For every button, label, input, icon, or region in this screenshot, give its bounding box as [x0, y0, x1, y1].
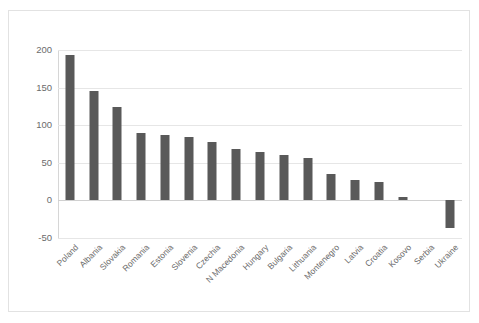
bar-slot [296, 50, 320, 238]
bar-slot [177, 50, 201, 238]
x-axis-tick-label: Latvia [343, 243, 365, 265]
bar-slot [319, 50, 343, 238]
bar-slot [58, 50, 82, 238]
bar[interactable] [113, 107, 122, 200]
bar[interactable] [351, 180, 360, 200]
bar[interactable] [137, 133, 146, 200]
x-axis-tick-label: Croatia [363, 243, 388, 268]
bar-slot [82, 50, 106, 238]
bar[interactable] [327, 174, 336, 200]
plot-area: 200150100500-50 [58, 50, 462, 238]
bar-slot [367, 50, 391, 238]
bar[interactable] [184, 137, 193, 200]
bar-slot [106, 50, 130, 238]
bar-slot [129, 50, 153, 238]
bar-slot [153, 50, 177, 238]
bar-slot [414, 50, 438, 238]
x-axis-tick-label: Poland [55, 243, 80, 268]
y-axis-tick-label: 50 [41, 158, 52, 168]
bar[interactable] [89, 91, 98, 201]
gridline [58, 238, 462, 239]
x-axis-tick-label: Ukraine [433, 243, 460, 270]
x-axis-tick-label: Hungary [241, 243, 270, 272]
bar[interactable] [303, 158, 312, 200]
bar[interactable] [208, 142, 217, 200]
bar-series [58, 50, 462, 238]
bar[interactable] [374, 182, 383, 201]
bar[interactable] [232, 149, 241, 200]
bar-slot [201, 50, 225, 238]
y-axis-tick-label: -50 [38, 233, 52, 243]
y-axis-tick-label: 200 [36, 45, 52, 55]
x-axis-tick-label: Kosovo [387, 243, 413, 269]
bar-slot [224, 50, 248, 238]
bar-slot [391, 50, 415, 238]
bar[interactable] [255, 152, 264, 201]
bar[interactable] [279, 155, 288, 201]
y-axis-tick-label: 150 [36, 83, 52, 93]
bar-slot [438, 50, 462, 238]
chart-frame: 200150100500-50 PolandAlbaniaSlovakiaRom… [8, 10, 470, 312]
x-axis-tick-labels: PolandAlbaniaSlovakiaRomaniaEstoniaSlove… [58, 243, 462, 313]
bar[interactable] [398, 197, 407, 200]
bar-slot [248, 50, 272, 238]
bar[interactable] [160, 135, 169, 200]
bar-slot [272, 50, 296, 238]
y-axis-tick-label: 100 [36, 120, 52, 130]
y-axis-tick-label: 0 [47, 196, 52, 206]
bar[interactable] [65, 55, 74, 200]
bar-slot [343, 50, 367, 238]
bar[interactable] [446, 200, 455, 228]
